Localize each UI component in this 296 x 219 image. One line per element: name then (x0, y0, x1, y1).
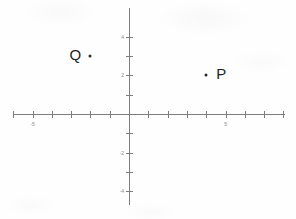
x-axis-tick (110, 111, 111, 118)
y-axis-tick (126, 95, 133, 96)
x-axis-tick (187, 111, 188, 118)
x-axis-tick-label: -5 (30, 121, 34, 127)
x-axis-tick (245, 111, 246, 118)
x-axis-tick (90, 111, 91, 118)
plot-area: -5542-2-4QP (0, 0, 296, 219)
x-axis-tick (13, 111, 14, 118)
point-label-q: Q (70, 47, 82, 62)
x-axis-tick (226, 111, 227, 118)
y-axis-tick-label: 4 (113, 34, 124, 40)
y-axis-tick (126, 133, 133, 134)
y-axis-tick (126, 56, 133, 57)
x-axis-tick (71, 111, 72, 118)
y-axis-tick-label: 2 (113, 72, 124, 78)
x-axis-tick (206, 111, 207, 118)
x-axis-tick (33, 111, 34, 118)
y-axis-tick (126, 75, 133, 76)
y-axis-tick (126, 153, 133, 154)
plotted-point-q (89, 55, 92, 58)
coordinate-plane-figure: -5542-2-4QP (0, 0, 296, 219)
x-axis-tick (148, 111, 149, 118)
x-axis-tick (264, 111, 265, 118)
y-axis-tick (126, 37, 133, 38)
y-axis-tick (126, 191, 133, 192)
point-label-p: P (216, 66, 226, 81)
x-axis-tick (168, 111, 169, 118)
plotted-point-p (205, 74, 208, 77)
x-axis-tick-label: 5 (224, 121, 227, 127)
y-axis-tick-label: -2 (113, 150, 124, 156)
y-axis-tick (126, 172, 133, 173)
x-axis-tick (283, 111, 284, 118)
y-axis-tick-label: -4 (113, 188, 124, 194)
x-axis-tick (52, 111, 53, 118)
